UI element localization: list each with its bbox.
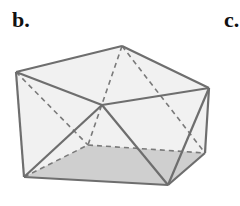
polyhedron-diagram <box>0 0 240 206</box>
